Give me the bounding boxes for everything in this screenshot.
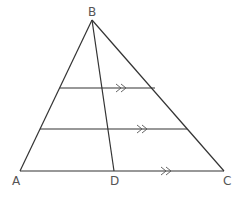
label-A: A	[12, 174, 21, 188]
triangle-diagram: B A D C	[0, 0, 244, 197]
label-C: C	[223, 174, 231, 188]
segments-group	[20, 20, 224, 171]
segment-BD	[92, 20, 114, 171]
point-labels: B A D C	[12, 5, 231, 188]
segment-BC	[92, 20, 224, 171]
label-B: B	[88, 5, 96, 19]
label-D: D	[110, 174, 119, 188]
segment-AB	[20, 20, 92, 171]
